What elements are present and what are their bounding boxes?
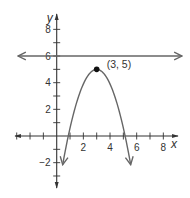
vertex-label: (3, 5) [107,58,132,70]
y-axis-label: y [46,11,54,25]
x-axis-label: x [170,137,178,151]
vertex-dot [94,67,100,73]
x-tick-label: 4 [107,142,113,153]
parabola-curve [63,69,131,164]
x-tick-label: 6 [134,142,140,153]
tick-labels: 24688642−2xy [39,11,178,168]
plot-series [18,56,182,165]
y-tick-label: 8 [45,24,51,35]
axis-ticks [17,29,164,176]
y-tick-label: 2 [45,104,51,115]
y-tick-label: 4 [45,77,51,88]
graph: 24688642−2xy (3, 5) [0,0,190,198]
x-tick-label: 2 [81,142,87,153]
x-tick-label: 8 [161,142,167,153]
y-tick-label: −2 [39,157,51,168]
